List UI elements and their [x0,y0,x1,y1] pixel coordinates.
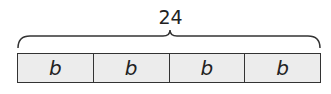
tape-bar: b b b b [17,53,321,83]
tape-segment: b [18,54,94,82]
tape-segment: b [94,54,170,82]
tape-segment: b [170,54,246,82]
tape-segment: b [245,54,320,82]
